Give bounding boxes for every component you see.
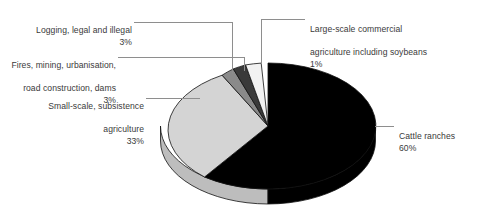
label-large-scale-agriculture: Large-scale commercial agriculture inclu… bbox=[310, 13, 480, 81]
label-small-scale-line1: Small-scale, subsistence bbox=[48, 101, 144, 111]
label-small-scale-line2: agriculture bbox=[103, 124, 144, 134]
leader-line-logging bbox=[134, 22, 232, 74]
label-small-scale-percent: 33% bbox=[2, 136, 144, 147]
leader-line-large-scale bbox=[261, 19, 305, 64]
label-fires-mining-line1: Fires, mining, urbanisation, bbox=[11, 60, 116, 70]
label-large-scale-percent: 1% bbox=[310, 59, 480, 70]
label-large-scale-line1: Large-scale commercial bbox=[310, 24, 402, 34]
label-logging-text: Logging, legal and illegal bbox=[36, 25, 132, 35]
label-large-scale-line2: agriculture including soybeans bbox=[310, 47, 427, 57]
label-cattle-ranches: Cattle ranches 60% bbox=[399, 120, 483, 166]
leader-line-fires-mining bbox=[118, 57, 244, 71]
label-small-scale-agriculture: Small-scale, subsistence agriculture 33% bbox=[2, 90, 144, 158]
label-logging-percent: 3% bbox=[2, 37, 132, 48]
label-cattle-ranches-text: Cattle ranches bbox=[399, 131, 455, 141]
label-cattle-ranches-percent: 60% bbox=[399, 143, 483, 154]
pie-chart-figure: Logging, legal and illegal 3% Fires, min… bbox=[0, 0, 483, 223]
pie-top-face bbox=[168, 63, 376, 189]
